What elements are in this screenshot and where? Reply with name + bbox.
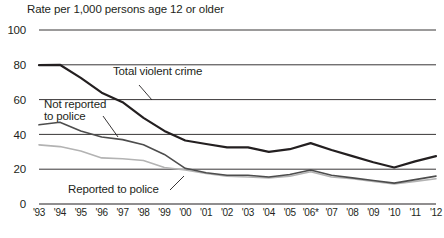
chart-container: Rate per 1,000 persons age 12 or older 1… <box>0 0 444 238</box>
x-axis-tick-1995: '95 <box>75 207 87 218</box>
x-axis-tick-1998: '98 <box>137 207 149 218</box>
x-axis-tick-1993: '93 <box>33 207 45 218</box>
leader-total-violent-crime <box>139 85 152 100</box>
x-axis-tick-1994: '94 <box>54 207 66 218</box>
x-axis-tick-2003: '03 <box>242 207 254 218</box>
x-axis-tick-2008: '08 <box>346 207 358 218</box>
x-axis-tick-1996: '96 <box>96 207 108 218</box>
annotation-not-reported-line1: Not reported <box>44 99 106 111</box>
x-axis-tick-2010: '10 <box>388 207 400 218</box>
x-axis-tick-2007: '07 <box>325 207 337 218</box>
x-axis-tick-2006: '06* <box>303 207 319 218</box>
x-axis-tick-1997: '97 <box>117 207 129 218</box>
annotation-not-reported-to-police: Not reported to police <box>44 99 106 122</box>
x-axis-tick-2011: '11 <box>409 207 420 218</box>
annotation-leader-lines <box>103 85 184 190</box>
annotation-total-violent-crime: Total violent crime <box>113 66 202 78</box>
x-axis-tick-2012: '12 <box>430 207 442 218</box>
x-axis-tick-2001: '01 <box>200 207 212 218</box>
annotation-not-reported-line2: to police <box>44 111 106 123</box>
series-line-not-reported-to-police <box>39 122 436 183</box>
series-line-reported-to-police <box>39 145 436 184</box>
x-axis-tick-2009: '09 <box>367 207 379 218</box>
x-axis-tick-2002: '02 <box>221 207 233 218</box>
leader-reported-to-police <box>170 176 184 190</box>
series-lines <box>39 65 436 184</box>
x-axis-tick-2000: '00 <box>179 207 191 218</box>
x-axis-tick-2005: '05 <box>284 207 296 218</box>
x-axis-tick-2004: '04 <box>263 207 275 218</box>
annotation-reported-to-police: Reported to police <box>68 184 159 196</box>
x-axis-tick-1999: '99 <box>158 207 170 218</box>
